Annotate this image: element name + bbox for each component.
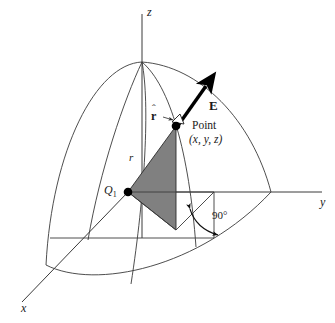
foot-drop-line bbox=[176, 192, 214, 230]
point-label: Point bbox=[192, 120, 216, 132]
x-axis bbox=[22, 192, 128, 302]
charge-subscript: 1 bbox=[113, 190, 117, 199]
sphere-outer-arc-left bbox=[46, 62, 142, 265]
x-axis-label: x bbox=[21, 302, 26, 314]
unit-vector-hat: ˆ bbox=[152, 103, 156, 114]
shaded-triangle bbox=[128, 126, 176, 230]
unit-vector-leader-line bbox=[163, 117, 173, 120]
point-coordinates-label: (x, y, z) bbox=[189, 134, 222, 146]
physics-diagram-figure: z y x Q1 r E ˆr Point (x, y, z) 90° bbox=[0, 0, 335, 323]
projection-lines bbox=[50, 192, 214, 238]
field-point-dot bbox=[172, 122, 181, 131]
right-angle-label: 90° bbox=[212, 210, 227, 221]
charge-label: Q1 bbox=[104, 184, 117, 199]
electric-field-label: E bbox=[209, 99, 218, 112]
unit-vector-label: ˆr bbox=[151, 110, 156, 122]
sphere-meridian-left bbox=[88, 62, 142, 240]
radius-label: r bbox=[129, 152, 133, 163]
y-axis-label: y bbox=[320, 196, 325, 208]
z-axis-label: z bbox=[147, 6, 152, 18]
charge-dot bbox=[124, 188, 133, 197]
diagram-canvas bbox=[0, 0, 335, 323]
charge-symbol: Q bbox=[104, 183, 113, 197]
